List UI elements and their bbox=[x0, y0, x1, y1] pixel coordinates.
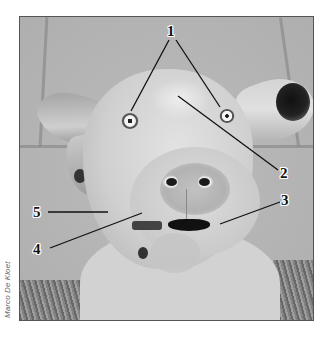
dog-photo bbox=[19, 16, 314, 321]
callout-label-1: 1 bbox=[167, 24, 175, 39]
dog-nose bbox=[160, 163, 230, 215]
dog-mouth bbox=[168, 219, 210, 231]
dog-eye-right bbox=[219, 109, 235, 123]
dog-lip-left bbox=[132, 221, 162, 230]
callout-label-5: 5 bbox=[33, 205, 41, 220]
callout-label-4: 4 bbox=[33, 242, 41, 257]
dog-ear-right-inner bbox=[276, 83, 310, 121]
dog-nostril-left bbox=[162, 175, 178, 189]
photo-credit: Marco De Kloet bbox=[3, 261, 12, 318]
callout-label-2: 2 bbox=[280, 166, 288, 181]
dog-chin bbox=[150, 233, 200, 273]
dog-lip-spot bbox=[138, 247, 148, 259]
callout-label-3: 3 bbox=[281, 193, 289, 208]
dog-eye-left bbox=[121, 113, 139, 129]
dog-brow bbox=[150, 79, 210, 119]
dog-nostril-right bbox=[198, 175, 214, 189]
